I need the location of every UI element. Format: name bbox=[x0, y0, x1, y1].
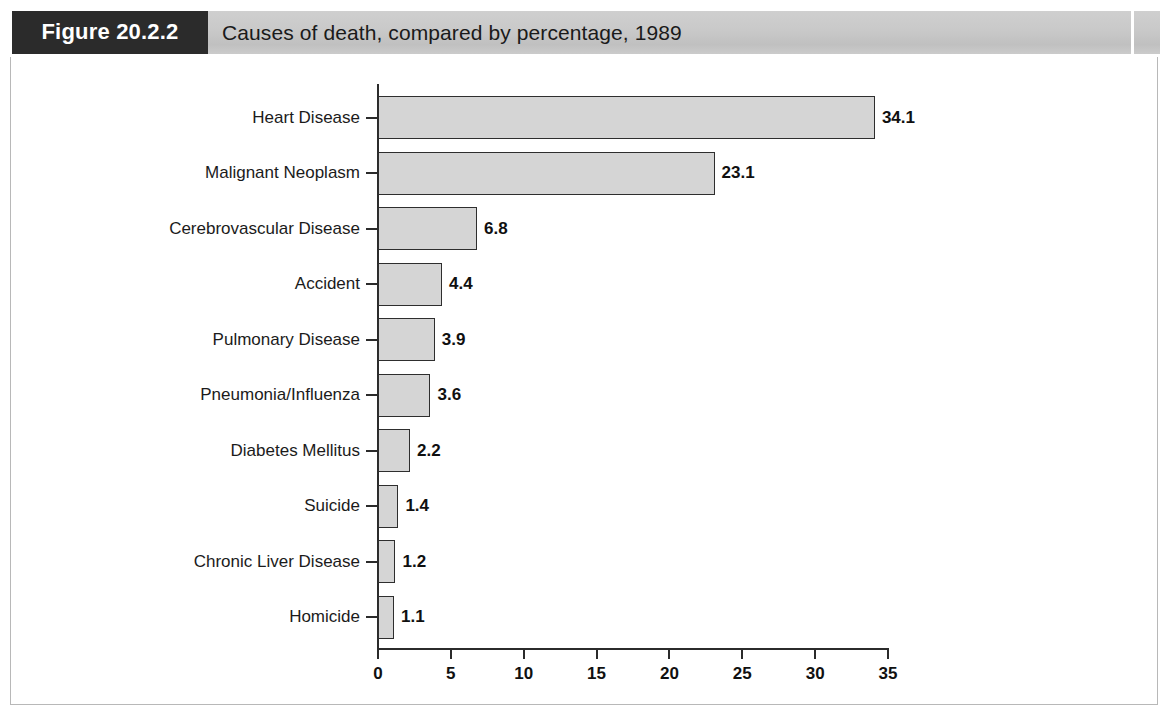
figure-container: Figure 20.2.2 Causes of death, compared … bbox=[0, 0, 1167, 720]
figure-body-frame bbox=[10, 57, 1158, 705]
figure-number-badge: Figure 20.2.2 bbox=[12, 11, 208, 54]
header-divider bbox=[1131, 11, 1134, 54]
figure-title: Causes of death, compared by percentage,… bbox=[222, 11, 682, 56]
